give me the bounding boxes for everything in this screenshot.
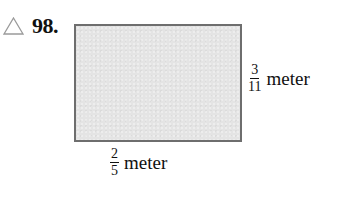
height-unit: meter (266, 68, 309, 90)
height-dimension-label: 3 11 meter (248, 63, 310, 94)
width-unit: meter (124, 152, 167, 174)
height-fraction: 3 11 (248, 63, 261, 94)
triangle-icon (3, 17, 24, 35)
width-dimension-label: 2 5 meter (110, 147, 167, 178)
height-denominator: 11 (248, 79, 261, 94)
width-numerator: 2 (110, 147, 119, 163)
rectangle-figure (74, 24, 242, 142)
height-numerator: 3 (250, 63, 259, 79)
width-fraction: 2 5 (110, 147, 119, 178)
problem-number: 98. (32, 14, 58, 38)
width-denominator: 5 (111, 163, 118, 178)
